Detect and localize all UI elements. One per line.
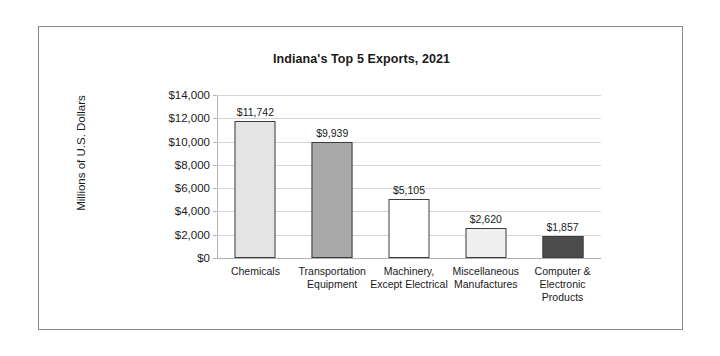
bar-value-label: $11,742: [237, 106, 274, 118]
y-axis-tick-label: $6,000: [175, 182, 210, 194]
y-axis-tick-mark: [213, 258, 217, 259]
bar-value-label: $9,939: [316, 127, 348, 139]
y-axis-tick-label: $0: [197, 252, 210, 264]
bar[interactable]: [235, 121, 276, 258]
bar[interactable]: [312, 142, 353, 258]
y-axis-tick-label: $14,000: [168, 89, 210, 101]
bar-value-label: $1,857: [547, 221, 579, 233]
y-axis-tick-label: $8,000: [175, 159, 210, 171]
y-axis-tick-label: $2,000: [175, 229, 210, 241]
plot-area: $14,000$12,000$10,000$8,000$6,000$4,000$…: [217, 95, 601, 258]
x-axis-category-label: Machinery, Except Electrical: [369, 265, 449, 291]
bar-group[interactable]: $11,742Chemicals: [217, 95, 294, 258]
x-axis-category-label: Computer & Electronic Products: [523, 265, 603, 304]
y-axis-tick-label: $10,000: [168, 136, 210, 148]
y-axis-tick-label: $4,000: [175, 205, 210, 217]
gridline: [217, 258, 601, 259]
bar-group[interactable]: $5,105Machinery, Except Electrical: [371, 95, 448, 258]
bar[interactable]: [388, 199, 429, 258]
chart-figure-frame: Indiana's Top 5 Exports, 2021 Millions o…: [38, 26, 683, 330]
bar[interactable]: [465, 228, 506, 259]
bar-group[interactable]: $9,939Transportation Equipment: [294, 95, 371, 258]
bar-group[interactable]: $1,857Computer & Electronic Products: [524, 95, 601, 258]
bar-group[interactable]: $2,620Miscellaneous Manufactures: [447, 95, 524, 258]
chart-title: Indiana's Top 5 Exports, 2021: [39, 52, 684, 66]
bar[interactable]: [542, 236, 583, 258]
bar-value-label: $2,620: [470, 213, 502, 225]
bar-value-label: $5,105: [393, 184, 425, 196]
x-axis-category-label: Miscellaneous Manufactures: [446, 265, 526, 291]
x-axis-category-label: Transportation Equipment: [292, 265, 372, 291]
y-axis-title: Millions of U.S. Dollars: [75, 68, 87, 238]
y-axis-tick-label: $12,000: [168, 112, 210, 124]
x-axis-category-label: Chemicals: [215, 265, 295, 278]
